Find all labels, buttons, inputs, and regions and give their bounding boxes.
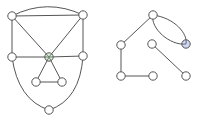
node-A bbox=[8, 12, 16, 20]
edge-D-E bbox=[49, 56, 83, 57]
edge-P-Q bbox=[121, 15, 153, 45]
edge-C-H bbox=[12, 57, 49, 110]
edge-A-B bbox=[12, 7, 83, 16]
edge-B-D bbox=[49, 15, 83, 57]
node-R bbox=[117, 72, 125, 80]
node-F bbox=[32, 78, 40, 86]
graph-diagram bbox=[0, 0, 207, 122]
node-P bbox=[149, 11, 157, 19]
node-G bbox=[58, 78, 66, 86]
edge-U-V bbox=[152, 44, 186, 76]
node-Q bbox=[117, 41, 125, 49]
edges-layer bbox=[12, 7, 186, 110]
node-D bbox=[45, 53, 53, 61]
node-T bbox=[182, 40, 190, 48]
node-S bbox=[149, 72, 157, 80]
edge-P-T bbox=[153, 15, 186, 44]
node-C bbox=[8, 53, 16, 61]
node-V bbox=[182, 72, 190, 80]
edge-A-D bbox=[12, 16, 49, 57]
edge-A-B bbox=[12, 15, 83, 16]
node-U bbox=[148, 40, 156, 48]
nodes-layer bbox=[8, 11, 190, 114]
node-B bbox=[79, 11, 87, 19]
node-H bbox=[45, 106, 53, 114]
node-E bbox=[79, 52, 87, 60]
